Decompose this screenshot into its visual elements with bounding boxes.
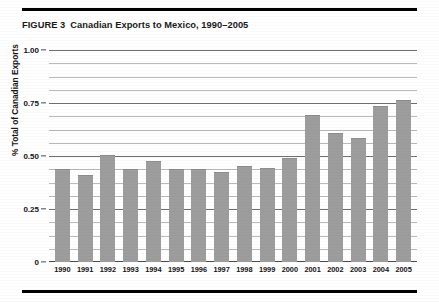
bar-slot — [233, 50, 256, 262]
bar-slot — [74, 50, 97, 262]
bar-1998[interactable] — [237, 166, 252, 262]
figure-label: FIGURE 3 — [22, 20, 65, 30]
y-axis-tick-label: 0.75 — [23, 99, 39, 108]
x-axis-tick-label: 1991 — [74, 265, 97, 274]
bar-1995[interactable] — [169, 169, 184, 262]
x-axis-tick-label: 1997 — [210, 265, 233, 274]
bar-1991[interactable] — [78, 175, 93, 262]
x-axis-tick-label: 2003 — [347, 265, 370, 274]
figure-container: FIGURE 3Canadian Exports to Mexico, 1990… — [0, 0, 439, 302]
y-axis-tick — [41, 261, 46, 262]
bar-slot — [324, 50, 347, 262]
bar-slot — [165, 50, 188, 262]
y-axis-tick — [41, 49, 46, 50]
x-axis-tick-label: 1990 — [51, 265, 74, 274]
y-axis-labels: 00.250.500.751.00 — [0, 50, 46, 262]
bar-slot — [210, 50, 233, 262]
bar-slot — [347, 50, 370, 262]
bar-1996[interactable] — [191, 169, 206, 262]
x-axis-tick-label: 1998 — [233, 265, 256, 274]
bar-slot — [256, 50, 279, 262]
y-axis-tick-label: 0.50 — [23, 152, 39, 161]
bar-slot — [370, 50, 393, 262]
bar-series — [49, 50, 417, 262]
plot-area — [49, 50, 417, 262]
y-axis-tick — [41, 102, 46, 103]
x-axis-tick-label: 1993 — [119, 265, 142, 274]
y-axis-tick-label: 0 — [35, 258, 39, 267]
bar-2002[interactable] — [328, 133, 343, 262]
bar-1999[interactable] — [260, 168, 275, 262]
x-axis-tick-label: 1996 — [188, 265, 211, 274]
figure-top-rule — [22, 8, 417, 11]
x-axis-tick-label: 2001 — [301, 265, 324, 274]
y-axis-tick-label: 0.25 — [23, 205, 39, 214]
bar-slot — [119, 50, 142, 262]
x-axis-tick-label: 1995 — [165, 265, 188, 274]
bar-2005[interactable] — [396, 100, 411, 262]
bar-1990[interactable] — [55, 169, 70, 262]
x-axis-tick-label: 2000 — [279, 265, 302, 274]
bar-2000[interactable] — [282, 158, 297, 262]
figure-bottom-rule — [22, 290, 417, 293]
bar-slot — [392, 50, 415, 262]
x-axis-tick-label: 1992 — [97, 265, 120, 274]
x-axis-tick-label: 1999 — [256, 265, 279, 274]
bar-slot — [51, 50, 74, 262]
x-axis-labels: 1990199119921993199419951996199719981999… — [49, 265, 417, 274]
figure-title: FIGURE 3Canadian Exports to Mexico, 1990… — [22, 20, 248, 30]
bar-slot — [188, 50, 211, 262]
bar-2004[interactable] — [373, 106, 388, 262]
bar-1992[interactable] — [100, 155, 115, 262]
figure-title-text: Canadian Exports to Mexico, 1990–2005 — [70, 20, 248, 30]
bar-slot — [97, 50, 120, 262]
x-axis-tick-label: 2004 — [370, 265, 393, 274]
y-axis-tick-label: 1.00 — [23, 46, 39, 55]
bar-slot — [301, 50, 324, 262]
bar-1994[interactable] — [146, 161, 161, 262]
bar-1997[interactable] — [214, 172, 229, 262]
bar-slot — [142, 50, 165, 262]
bar-1993[interactable] — [123, 169, 138, 262]
x-axis-tick-label: 2002 — [324, 265, 347, 274]
bar-slot — [279, 50, 302, 262]
y-axis-tick — [41, 208, 46, 209]
y-axis-tick — [41, 155, 46, 156]
bar-2001[interactable] — [305, 115, 320, 262]
bar-2003[interactable] — [351, 138, 366, 262]
x-axis-tick-label: 2005 — [392, 265, 415, 274]
x-axis-tick-label: 1994 — [142, 265, 165, 274]
